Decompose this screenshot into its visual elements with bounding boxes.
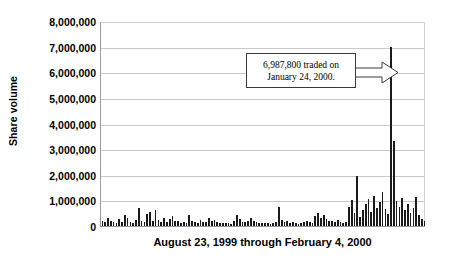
- bar: [188, 215, 190, 226]
- bar: [376, 208, 378, 226]
- bar: [278, 207, 280, 226]
- bar: [356, 176, 358, 226]
- bar: [113, 222, 115, 226]
- bar: [272, 223, 274, 226]
- bar: [118, 219, 120, 226]
- bar: [172, 216, 174, 226]
- bar: [253, 221, 255, 226]
- bar: [116, 223, 118, 226]
- bar: [239, 219, 241, 226]
- bar: [174, 221, 176, 226]
- bar: [202, 222, 204, 226]
- bar: [415, 197, 417, 226]
- bar: [312, 223, 314, 226]
- bar: [359, 217, 361, 226]
- bar: [256, 222, 258, 226]
- callout-line-2: January 24, 2000.: [267, 71, 335, 83]
- bar: [152, 221, 154, 226]
- bar: [421, 219, 423, 226]
- bar: [424, 221, 426, 226]
- callout-line-1: 6,987,800 traded on: [263, 59, 339, 71]
- y-axis-tick-label: 4,000,000: [49, 119, 96, 131]
- bar: [236, 215, 238, 226]
- bar: [144, 222, 146, 226]
- bar: [146, 214, 148, 226]
- bar: [107, 218, 109, 226]
- bar: [362, 210, 364, 226]
- bar: [320, 218, 322, 226]
- y-axis-tick-labels: 8,000,0007,000,0006,000,0005,000,0004,00…: [20, 0, 100, 261]
- bar: [373, 196, 375, 226]
- y-axis-tick-label: 8,000,000: [49, 16, 96, 28]
- bar: [326, 219, 328, 226]
- y-axis-tick-label: 2,000,000: [49, 170, 96, 182]
- bar: [200, 220, 202, 226]
- y-axis-title-label: Share volume: [7, 76, 19, 146]
- bar: [186, 223, 188, 226]
- bar: [230, 224, 232, 226]
- bar: [166, 222, 168, 226]
- bar: [306, 221, 308, 226]
- bar: [208, 218, 210, 226]
- bar: [180, 223, 182, 226]
- bar: [281, 220, 283, 226]
- bar: [205, 222, 207, 226]
- bar: [194, 222, 196, 226]
- bar: [110, 221, 112, 226]
- bar: [317, 213, 319, 226]
- bar: [169, 219, 171, 226]
- bar: [284, 222, 286, 226]
- bar: [337, 220, 339, 226]
- bar: [155, 210, 157, 226]
- bar: [261, 223, 263, 226]
- bar: [413, 208, 415, 226]
- bar: [410, 213, 412, 226]
- bar: [399, 207, 401, 226]
- bar: [351, 200, 353, 226]
- bar: [370, 212, 372, 226]
- bar: [242, 222, 244, 226]
- bar: [247, 221, 249, 226]
- bar: [404, 210, 406, 226]
- y-axis-tick-label: 0: [90, 221, 96, 233]
- bar: [334, 222, 336, 226]
- bar: [191, 221, 193, 226]
- callout-arrow-icon: [352, 60, 400, 85]
- x-axis-title: August 23, 1999 through February 4, 2000: [100, 236, 425, 248]
- bar: [345, 222, 347, 226]
- bar: [183, 222, 185, 226]
- bar: [270, 224, 272, 226]
- y-axis-tick-label: 7,000,000: [49, 42, 96, 54]
- bar: [328, 221, 330, 226]
- bar: [124, 215, 126, 226]
- bar: [121, 222, 123, 226]
- bar: [368, 199, 370, 226]
- bar: [250, 218, 252, 226]
- bar: [222, 223, 224, 226]
- bar: [292, 222, 294, 226]
- bar: [379, 202, 381, 226]
- bar: [295, 223, 297, 226]
- bar: [298, 224, 300, 226]
- bar: [303, 222, 305, 226]
- bar: [275, 222, 277, 226]
- bar: [314, 216, 316, 226]
- bar: [197, 223, 199, 226]
- y-axis-tick-label: 1,000,000: [49, 195, 96, 207]
- bar: [158, 220, 160, 226]
- bar: [393, 141, 395, 226]
- bar: [354, 213, 356, 226]
- bar: [286, 221, 288, 226]
- bar: [407, 204, 409, 226]
- y-axis-tick-label: 6,000,000: [49, 67, 96, 79]
- bar: [289, 223, 291, 226]
- bar: [264, 223, 266, 226]
- bar: [216, 222, 218, 226]
- bar: [102, 221, 104, 226]
- peak-callout-box: 6,987,800 traded on January 24, 2000.: [246, 53, 356, 88]
- bar: [348, 207, 350, 226]
- bar: [160, 222, 162, 226]
- bar: [401, 198, 403, 226]
- bar: [300, 223, 302, 226]
- bar: [141, 221, 143, 226]
